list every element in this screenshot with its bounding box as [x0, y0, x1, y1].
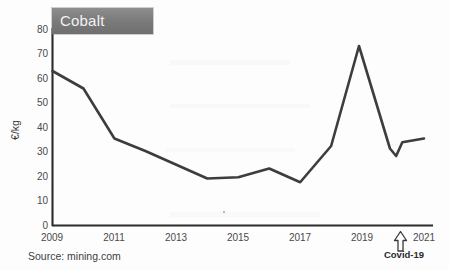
- y-tick-50: 50: [22, 98, 48, 108]
- y-tick-40: 40: [22, 123, 48, 133]
- covid-annotation-label: Covid-19: [368, 250, 440, 260]
- y-tick-10: 10: [22, 196, 48, 206]
- x-tick-2013: 2013: [154, 233, 198, 243]
- y-axis-title: €/kg: [9, 105, 21, 155]
- x-tick-2015: 2015: [216, 233, 260, 243]
- x-tick-2009: 2009: [30, 233, 74, 243]
- y-tick-70: 70: [22, 49, 48, 59]
- y-tick-0: 0: [22, 221, 48, 231]
- source-caption: Source: mining.com: [28, 250, 121, 262]
- y-tick-20: 20: [22, 172, 48, 182]
- x-tick-2021: 2021: [402, 233, 446, 243]
- scan-dot: [223, 211, 225, 213]
- chart-title-text: Cobalt: [60, 12, 105, 30]
- x-tick-2011: 2011: [92, 233, 136, 243]
- x-tick-2019: 2019: [340, 233, 384, 243]
- chart-svg: [0, 0, 449, 270]
- y-tick-30: 30: [22, 147, 48, 157]
- plot-area: 0 10 20 30 40 50 60 70 80 2009 2011 2013…: [0, 0, 449, 270]
- chart-title-banner: Cobalt: [52, 8, 153, 34]
- y-tick-60: 60: [22, 74, 48, 84]
- y-tick-80: 80: [22, 25, 48, 35]
- data-series-line: [53, 46, 425, 182]
- chart-screenshot: 0 10 20 30 40 50 60 70 80 2009 2011 2013…: [0, 0, 449, 270]
- x-tick-2017: 2017: [278, 233, 322, 243]
